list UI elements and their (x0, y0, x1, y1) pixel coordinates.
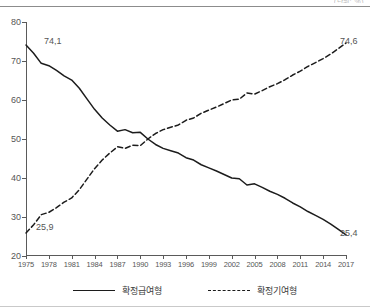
y-tick-label: 80 (11, 17, 21, 27)
legend-item-defined-contribution: 확정기여형 (208, 284, 297, 297)
series-line-defined-benefit (26, 45, 346, 235)
x-tick-label: 2008 (269, 260, 285, 269)
legend-item-defined-benefit: 확정급여형 (73, 284, 162, 297)
y-tick-label: 40 (11, 173, 21, 183)
x-tick-label: 2005 (247, 260, 263, 269)
x-tick (346, 255, 347, 259)
annotation-dc-end: 74,6 (340, 36, 358, 46)
legend-label-defined-benefit: 확정급여형 (122, 284, 162, 297)
top-divider (0, 6, 370, 7)
chart-legend: 확정급여형 확정기여형 (0, 284, 370, 297)
x-tick-label: 1993 (155, 260, 171, 269)
series-layer (26, 22, 346, 256)
annotation-dc-start: 25,9 (36, 222, 54, 232)
x-tick-label: 2017 (338, 260, 354, 269)
x-tick-label: 1975 (18, 260, 34, 269)
y-tick-label: 60 (11, 95, 21, 105)
x-tick-label: 2014 (315, 260, 331, 269)
x-tick-label: 2002 (224, 260, 240, 269)
x-tick-label: 1987 (109, 260, 125, 269)
legend-swatch-solid-icon (73, 290, 115, 291)
y-tick-label: 70 (11, 56, 21, 66)
annotation-db-start: 74,1 (44, 36, 62, 46)
x-tick-label: 1984 (87, 260, 103, 269)
annotation-db-end: 25,4 (340, 228, 358, 238)
legend-label-defined-contribution: 확정기여형 (257, 284, 297, 297)
x-tick-label: 1978 (41, 260, 57, 269)
y-tick-label: 30 (11, 212, 21, 222)
plot-area: 20304050607080 1975197819811984198719901… (26, 22, 346, 256)
unit-label: (단위: %) (334, 0, 364, 3)
x-tick-label: 1996 (178, 260, 194, 269)
x-tick-label: 1981 (64, 260, 80, 269)
x-tick-label: 1990 (132, 260, 148, 269)
series-line-defined-contribution (26, 43, 346, 233)
legend-swatch-dashed-icon (208, 290, 250, 291)
line-chart: (단위: %) 20304050607080 19751978198119841… (0, 0, 370, 307)
x-tick-label: 1999 (201, 260, 217, 269)
x-tick-label: 2011 (293, 260, 308, 269)
y-tick-label: 50 (11, 134, 21, 144)
